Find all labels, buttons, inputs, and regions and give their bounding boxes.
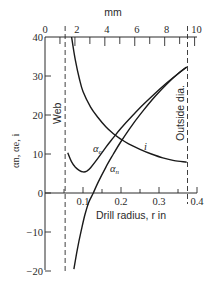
y-tick-label: 0 [38, 188, 43, 199]
top-tick-label: 0 [42, 24, 47, 35]
drill-angle-chart: −20−10010203040 0.10.20.30.4 0246810 mm … [0, 0, 214, 286]
y-tick-label: −10 [27, 227, 43, 238]
top-tick-label: 6 [134, 24, 139, 35]
outside-dia-label: Outside dia. [174, 85, 186, 141]
series-i-curve [72, 37, 187, 162]
top-tick-label: 8 [164, 24, 169, 35]
y-tick-label: 20 [33, 110, 44, 121]
series-i-label: i [144, 141, 147, 152]
series-alpha-e-label: αe [93, 143, 102, 156]
top-tick-label: 4 [104, 24, 110, 35]
x-ticks: 0.10.20.30.4 [64, 187, 204, 207]
y-axis-label: αn, αe, i [10, 134, 21, 168]
y-ticks: −20−10010203040 [27, 32, 51, 277]
x-tick-label: 0.3 [152, 196, 165, 207]
top-mm-ticks: 0246810 [42, 24, 201, 46]
x-tick-label: 0.2 [114, 196, 127, 207]
top-tick-label: 10 [191, 24, 202, 35]
x-tick-label: 0.4 [190, 196, 204, 207]
web-label: Web [51, 102, 63, 124]
x-axis-label: Drill radius, r in [96, 209, 166, 221]
y-tick-label: −20 [27, 266, 43, 277]
top-axis-label: mm [104, 6, 122, 18]
y-tick-label: 10 [33, 149, 44, 160]
series-alpha-n-label: αn [110, 163, 120, 176]
y-tick-label: 30 [33, 71, 44, 82]
top-tick-label: 2 [74, 24, 79, 35]
